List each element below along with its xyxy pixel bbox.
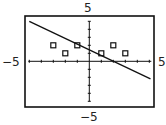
data-point-marker [123, 51, 128, 56]
data-point-marker [51, 43, 56, 48]
data-point-marker [63, 51, 68, 56]
data-point-marker [111, 43, 116, 48]
regression-line [29, 21, 150, 79]
plot-area [0, 0, 166, 125]
